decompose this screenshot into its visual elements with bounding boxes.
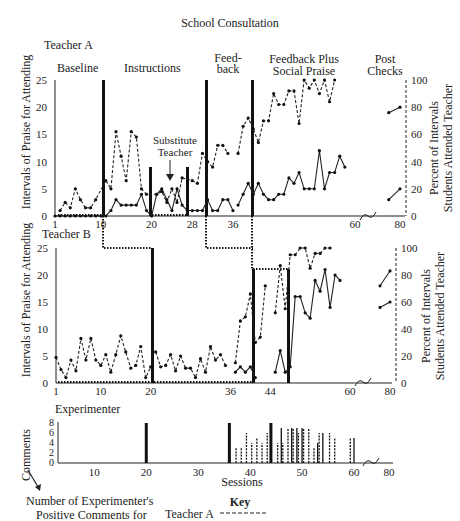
teacher-a-panel: Teacher A Baseline Instructions Substitu…: [19, 38, 455, 230]
series-line: [380, 302, 390, 307]
svg-text:10: 10: [36, 156, 48, 168]
svg-text:20: 20: [37, 269, 49, 281]
b-left-ticks: 2520151050: [37, 242, 49, 389]
a-left-ticks: 2520151050: [36, 74, 48, 222]
svg-text:60: 60: [401, 296, 413, 308]
svg-text:15: 15: [37, 296, 49, 308]
svg-text:60: 60: [345, 385, 357, 397]
teacher-a-series: [53, 78, 401, 217]
svg-text:20: 20: [36, 101, 48, 113]
arrow-head-icon: [35, 484, 41, 491]
teacher-b-label: Teacher B: [42, 227, 91, 241]
b-x-ticks: 1102036446080: [53, 385, 396, 397]
svg-text:10: 10: [95, 218, 107, 230]
svg-text:60: 60: [350, 218, 362, 230]
svg-text:60: 60: [411, 128, 423, 140]
b-right-axis-label-1: Percent of Intervals: [419, 269, 433, 363]
svg-text:15: 15: [36, 128, 48, 140]
series-line: [238, 151, 345, 205]
svg-text:60: 60: [349, 466, 361, 478]
svg-text:0: 0: [411, 210, 417, 222]
teacher-b-series: [54, 246, 391, 382]
svg-text:20: 20: [141, 466, 153, 478]
svg-text:10: 10: [37, 323, 49, 335]
svg-text:25: 25: [36, 74, 48, 86]
key-teacher-a-label: Teacher A: [165, 507, 214, 521]
svg-text:40: 40: [411, 156, 423, 168]
svg-text:0: 0: [401, 377, 407, 389]
svg-text:5: 5: [43, 350, 49, 362]
footnote-line-1: Number of Experimenter's: [26, 494, 154, 508]
phase-label-fbsp-2: Social Praise: [273, 64, 335, 78]
svg-text:50: 50: [297, 466, 309, 478]
svg-text:80: 80: [411, 101, 423, 113]
svg-text:10: 10: [95, 385, 107, 397]
series-line: [235, 286, 265, 363]
svg-text:28: 28: [187, 218, 199, 230]
comments-axis-label: Comments: [19, 429, 33, 481]
svg-text:44: 44: [265, 385, 277, 397]
svg-text:80: 80: [401, 269, 413, 281]
svg-text:20: 20: [411, 183, 423, 195]
a-right-axis-label-2: Students Attended Teacher: [441, 84, 455, 212]
svg-text:20: 20: [401, 350, 413, 362]
phase-label-feedback-2: back: [217, 62, 240, 76]
phase-label-post-2: Checks: [367, 64, 403, 78]
series-line: [156, 347, 226, 378]
a-right-axis-label-1: Percent of Intervals: [427, 101, 441, 195]
chart-title: School Consultation: [181, 16, 279, 30]
svg-text:36: 36: [227, 218, 239, 230]
svg-text:80: 80: [385, 385, 397, 397]
svg-text:80: 80: [395, 218, 407, 230]
svg-text:0: 0: [43, 377, 49, 389]
school-consultation-chart: School Consultation Teacher A Baseline I…: [0, 0, 460, 521]
svg-text:20: 20: [145, 385, 157, 397]
series-line: [60, 132, 228, 211]
key-title: Key: [230, 495, 251, 509]
phase-label-instructions: Instructions: [124, 61, 181, 75]
svg-text:36: 36: [225, 385, 237, 397]
sessions-axis-label: Sessions: [221, 475, 263, 489]
teacher-a-label: Teacher A: [44, 38, 93, 52]
experimenter-bars: [146, 423, 354, 463]
phase-label-substitute-2: Teacher: [158, 146, 193, 158]
svg-text:0: 0: [49, 457, 54, 468]
a-left-axis-label: Intervals of Praise for Attending: [19, 55, 33, 210]
svg-text:100: 100: [401, 242, 418, 254]
phase-label-baseline: Baseline: [57, 61, 98, 75]
series-line: [389, 189, 400, 200]
series-line: [389, 107, 400, 112]
series-line: [275, 270, 340, 373]
experimenter-panel: Experimenter Comments 86420 102030405060…: [19, 402, 395, 489]
svg-text:80: 80: [384, 466, 396, 478]
arrow-head-icon: [166, 174, 174, 181]
a-x-ticks: 1102028366080: [52, 218, 406, 230]
b-left-axis-label: Intervals of Praise for Attending: [19, 223, 33, 378]
b-right-axis-label-2: Students Attended Teacher: [433, 252, 447, 380]
svg-text:1: 1: [53, 385, 59, 397]
exp-left-ticks: 86420: [49, 417, 54, 468]
series-line: [380, 271, 390, 286]
svg-text:40: 40: [401, 323, 413, 335]
teacher-b-panel: Teacher B Intervals of Praise for Attend…: [19, 223, 447, 397]
svg-text:100: 100: [411, 74, 428, 86]
svg-text:25: 25: [37, 242, 49, 254]
a-right-ticks: 100806040200: [411, 74, 428, 222]
svg-text:10: 10: [89, 466, 101, 478]
svg-text:0: 0: [42, 210, 48, 222]
svg-text:20: 20: [146, 218, 158, 230]
phase-label-substitute-1: Substitute: [153, 134, 197, 146]
series-line: [56, 336, 151, 378]
footnote-line-2: Positive Comments for: [36, 508, 147, 521]
b-right-ticks: 100806040200: [401, 242, 418, 389]
svg-text:5: 5: [42, 183, 48, 195]
experimenter-label: Experimenter: [55, 402, 120, 416]
svg-text:30: 30: [193, 466, 205, 478]
